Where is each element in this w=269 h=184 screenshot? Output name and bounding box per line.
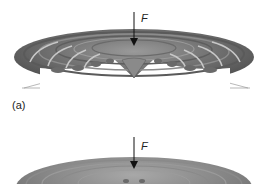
deformed-plate-render-a <box>0 0 269 92</box>
force-label-b: F <box>141 140 148 152</box>
panel-label-a: (a) <box>12 99 25 111</box>
figure-panel-b: F <box>0 135 269 184</box>
force-label-a: F <box>141 12 148 24</box>
deformed-plate-render-b <box>0 135 269 184</box>
figure-panel-a: F <box>0 0 269 92</box>
